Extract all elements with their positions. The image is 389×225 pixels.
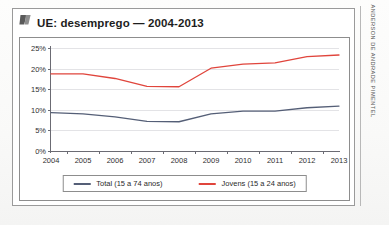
- legend-swatch: [199, 183, 216, 185]
- x-axis-label: 2004: [43, 156, 60, 165]
- x-axis-label: 2012: [299, 156, 316, 165]
- y-axis-label: 5%: [35, 126, 46, 135]
- x-axis-label: 2006: [107, 156, 124, 165]
- title-row: UE: desemprego — 2004-2013: [13, 9, 354, 37]
- x-axis-label: 2008: [171, 156, 188, 165]
- x-axis-label: 2005: [75, 156, 92, 165]
- legend-label: Total (15 a 74 anos): [96, 179, 162, 188]
- page-background: UE: desemprego — 2004-2013 0%5%10%15%20%…: [0, 0, 389, 225]
- quote-mark-icon: [19, 15, 31, 30]
- page-title: UE: desemprego — 2004-2013: [37, 17, 204, 29]
- x-axis-line: [50, 151, 340, 152]
- plot-area: 0%5%10%15%20%25% 20042005200620072008200…: [51, 48, 339, 151]
- legend-item[interactable]: Total (15 a 74 anos): [73, 179, 162, 188]
- chart-card: UE: desemprego — 2004-2013 0%5%10%15%20%…: [12, 8, 355, 206]
- legend-label: Jovens (15 a 24 anos): [222, 179, 296, 188]
- series-lines: [51, 48, 339, 151]
- x-axis-label: 2013: [331, 156, 348, 165]
- y-axis-label: 0%: [35, 147, 46, 156]
- chart-frame: 0%5%10%15%20%25% 20042005200620072008200…: [19, 37, 350, 201]
- x-axis-label: 2010: [235, 156, 252, 165]
- x-axis-label: 2011: [267, 156, 283, 165]
- y-axis-label: 15%: [31, 85, 46, 94]
- series-line: [51, 106, 339, 122]
- credit-sidebar: ANDERSON DE ANDRADE PIMENTEL: [360, 6, 385, 206]
- legend-swatch: [73, 183, 90, 185]
- x-axis-label: 2009: [203, 156, 220, 165]
- credit-text: ANDERSON DE ANDRADE PIMENTEL: [370, 4, 376, 117]
- y-axis-label: 10%: [31, 105, 46, 114]
- y-axis-label: 20%: [31, 64, 46, 73]
- y-axis-label: 25%: [31, 44, 46, 53]
- series-line: [51, 55, 339, 87]
- x-axis-label: 2007: [139, 156, 156, 165]
- legend: Total (15 a 74 anos)Jovens (15 a 24 anos…: [62, 175, 307, 192]
- legend-item[interactable]: Jovens (15 a 24 anos): [199, 179, 296, 188]
